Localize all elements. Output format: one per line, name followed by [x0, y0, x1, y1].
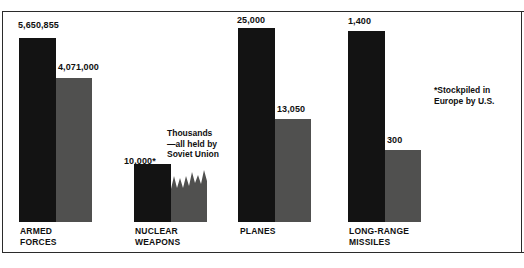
- bar-planes-gray: [275, 119, 311, 222]
- plot-area: 5,650,855 4,071,000 ARMED FORCES 10,000*…: [0, 0, 524, 268]
- category-label-planes: PLANES: [240, 226, 276, 237]
- footnote-stockpiled: *Stockpiled in Europe by U.S.: [434, 85, 494, 107]
- bar-missiles-dark: [348, 31, 385, 222]
- bar-value-missiles-gray: 300: [387, 135, 402, 145]
- annotation-nuclear-weapons: Thousands —all held by Soviet Union: [167, 128, 219, 160]
- bar-nuclear-weapons-gray: [171, 164, 207, 222]
- bar-nuclear-weapons-dark: [134, 164, 171, 222]
- bar-value-missiles-dark: 1,400: [348, 16, 371, 26]
- bar-value-planes-gray: 13,050: [277, 104, 305, 114]
- bar-planes-dark: [238, 28, 275, 222]
- category-label-missiles: LONG-RANGE MISSILES: [349, 226, 409, 247]
- category-label-nuclear-weapons: NUCLEAR WEAPONS: [135, 226, 180, 247]
- bar-value-armed-forces-dark: 5,650,855: [18, 20, 59, 30]
- bar-value-armed-forces-gray: 4,071,000: [58, 62, 99, 72]
- bar-armed-forces-dark: [19, 38, 56, 222]
- bar-value-nuclear-weapons-dark: 10,000*: [124, 156, 156, 166]
- chart-figure: 5,650,855 4,071,000 ARMED FORCES 10,000*…: [0, 0, 524, 268]
- bar-missiles-gray: [385, 150, 421, 222]
- bar-value-planes-dark: 25,000: [237, 15, 265, 25]
- category-label-armed-forces: ARMED FORCES: [20, 226, 57, 247]
- bar-armed-forces-gray: [56, 78, 92, 222]
